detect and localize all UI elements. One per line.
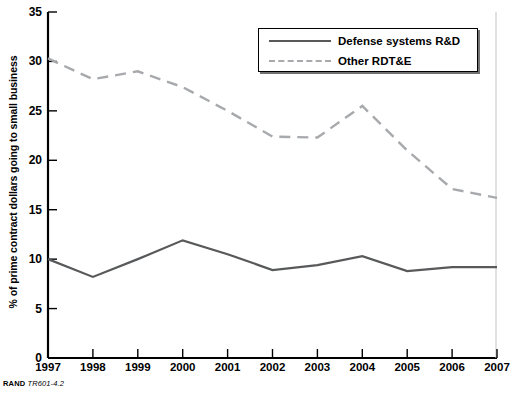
legend-item-defense-systems-rd: Defense systems R&D <box>259 31 477 51</box>
y-axis-ticks <box>48 12 57 358</box>
x-tick-label: 2005 <box>382 361 432 373</box>
x-tick-label: 1998 <box>68 361 118 373</box>
x-tick-label: 2006 <box>427 361 477 373</box>
legend-label: Other RDT&E <box>338 55 411 67</box>
chart-legend: Defense systems R&D Other RDT&E <box>258 28 478 72</box>
x-tick-label: 1997 <box>23 361 73 373</box>
legend-item-other-rdte: Other RDT&E <box>259 51 477 71</box>
legend-label: Defense systems R&D <box>338 35 460 47</box>
series-line-defense-systems-rd <box>48 240 497 277</box>
figure-number-label: TR601-4.2 <box>28 379 64 388</box>
x-tick-label: 1999 <box>113 361 163 373</box>
rand-brand-label: RAND <box>3 379 25 388</box>
x-tick-label: 2000 <box>158 361 208 373</box>
legend-swatch-dashed-icon <box>269 55 331 67</box>
x-tick-label: 2007 <box>472 361 517 373</box>
x-tick-label: 2001 <box>203 361 253 373</box>
series-line-other-rdte <box>48 58 497 197</box>
x-tick-label: 2002 <box>248 361 298 373</box>
figure-credit: RAND TR601-4.2 <box>3 379 64 388</box>
x-tick-label: 2003 <box>292 361 342 373</box>
x-axis-ticks <box>48 349 497 358</box>
chart-figure: % of prime contract dollars going to sma… <box>0 0 517 395</box>
legend-swatch-solid-icon <box>269 35 331 47</box>
x-tick-label: 2004 <box>337 361 387 373</box>
